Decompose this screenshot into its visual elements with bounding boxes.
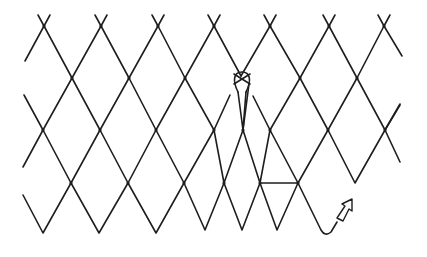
knot-points: [41, 24, 386, 184]
direction-arrow-icon: [337, 199, 352, 221]
mesh-loop: [234, 72, 250, 130]
netting-diagram: [0, 0, 427, 257]
diamond-mesh: [23, 15, 402, 234]
